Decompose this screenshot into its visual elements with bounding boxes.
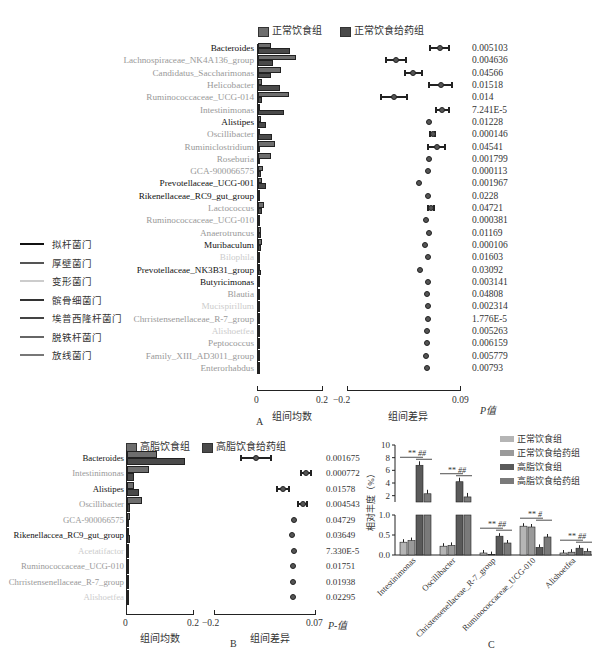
tick-label: 0 [123,618,128,628]
y-tick-label: 8 [386,453,391,463]
bar-group2 [258,196,260,202]
error-cap [428,82,430,88]
bar-group2 [258,122,266,128]
bar [424,494,431,502]
bar-group2 [258,147,260,153]
difference-point [290,594,296,600]
genus-label: Peptococcus [208,337,254,349]
legend-swatch-icon [258,27,269,37]
p-value: 0.001967 [472,177,508,189]
legend-swatch-icon [340,27,351,37]
bar-group1 [127,559,129,566]
difference-point [424,328,430,334]
phylum-label: 髌骨细菌门 [52,293,102,307]
p-value: 0.000772 [326,467,360,479]
tick [460,386,461,390]
p-value: 0.03649 [326,529,355,541]
tick [315,610,316,614]
error-cap [297,501,299,507]
bar [560,553,567,555]
bar-group2 [258,220,260,226]
bar-group2 [127,458,185,465]
genus-label: Bacteroides [82,452,124,464]
p-value: 0.002314 [472,300,508,312]
error-cap [448,107,450,113]
phylum-line-icon [20,280,44,282]
difference-point [290,563,296,569]
legend-normal-diet-drug: 正常饮食给药组 [340,25,424,36]
phylum-line-icon [20,336,44,338]
genus-label: Lactococcus [208,202,254,214]
p-value: 0.04808 [472,288,503,300]
legend-label: 高脂饮食给药组 [517,475,580,486]
bar [456,515,463,555]
genus-label: Ruminiclostridium [185,141,254,153]
error-cap [288,486,290,492]
bar-group2 [127,473,134,480]
y-tick-label: 0.0 [379,550,391,560]
panel-a: 正常饮食组 正常饮食给药组 BacteroidesLachnospiraceae… [0,0,594,430]
bar-group1 [127,575,129,582]
tick [347,386,348,390]
error-cap [427,144,429,150]
panel-label-b: B [230,638,237,649]
x-axis-title-diff: 组间差异 [250,630,290,645]
significance-mark: ** [528,510,536,519]
legend-high-fat-diet-drug: 高脂饮食给药组 [202,441,286,452]
p-value: 0.000146 [472,128,508,140]
p-value: 0.005779 [472,350,508,362]
legend-swatch-icon [500,464,514,470]
error-cap [300,470,302,476]
bar-group2 [258,306,260,312]
panel-b-diff-x-axis [214,614,316,615]
bar-group2 [258,110,284,116]
genus-label: Alishoetfea [212,325,254,337]
significance-mark: ** [408,449,416,458]
bar-group2 [258,368,260,374]
p-value: 0.0228 [472,190,498,202]
x-category-label: Christensenellaceae_R-7_group [414,555,498,639]
p-value: 0.004543 [326,498,360,510]
p-value-header: P-值 [328,617,347,632]
p-value: 7.330E-5 [326,545,359,557]
bar-group2 [258,73,271,79]
difference-point [289,532,295,538]
error-cap [444,144,446,150]
panel-c: 2468100.00.51.0相对丰度（%）正常饮食组正常饮食给药组高脂饮食组高… [360,430,594,660]
tick-label: 0.09 [452,395,469,405]
p-value: 0.01938 [326,576,355,588]
phylum-line-icon [20,317,44,319]
error-cap [270,455,272,461]
difference-point [423,217,429,223]
legend-swatch-icon [202,443,213,453]
p-value-header: P值 [480,402,496,417]
difference-point [280,486,286,492]
panel-b-mean-x-axis [126,614,194,615]
difference-point [290,579,296,585]
error-cap [435,107,437,113]
p-value: 0.014 [472,91,493,103]
x-category-label: Intestinimonas [375,555,417,597]
y-tick-label: 2 [386,491,391,501]
phylum-label: 变形菌门 [52,274,92,288]
difference-point [393,57,399,63]
bar-group1 [127,466,149,473]
bar-group2 [258,134,272,140]
tick-label: −0.2 [333,395,350,405]
genus-label: Blautia [227,288,254,300]
x-category-label: Alishoetfea [543,555,578,590]
significance-mark: ** [568,532,576,541]
phylum-label: 脱铁杆菌门 [52,330,102,344]
bar [400,542,407,555]
panel-a-legend: 正常饮食组 正常饮食给药组 [258,20,424,38]
error-cap [385,57,387,63]
significance-mark: ## [418,449,427,458]
difference-point [291,517,297,523]
bar-group2 [127,504,130,511]
panel-label-a: A [256,416,263,427]
genus-label: Ruminococcaceae_UCG-014 [146,91,254,103]
genus-label: Roseburia [217,153,254,165]
significance-mark: ## [458,466,467,475]
difference-point [425,254,431,260]
difference-point [428,205,434,211]
